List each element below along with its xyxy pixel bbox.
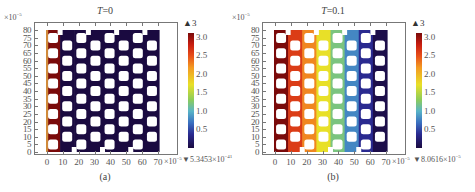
x-tick-mark (142, 23, 143, 26)
y-tick-mark (35, 61, 38, 62)
colorbar-tick-label: 2.5 (424, 50, 435, 60)
x-tick-label: 40 (330, 157, 346, 167)
y-exponent-label: ×10−5 (232, 12, 250, 22)
panel-b-title: T=0.1 (293, 5, 373, 16)
y-exponent-label: ×10−5 (4, 12, 22, 22)
x-tick-mark (354, 151, 355, 154)
x-tick-mark (158, 151, 159, 154)
x-tick-mark (307, 23, 308, 26)
colorbar-max-label: ▲3 (183, 18, 196, 28)
panel-b: T=0.1 ×10−5 8075706560555045403530252015… (228, 0, 465, 192)
y-tick-mark (263, 114, 266, 115)
y-tick-mark (35, 114, 38, 115)
y-tick-mark (35, 68, 38, 69)
panel-a-title: T=0 (65, 5, 145, 16)
y-tick-mark (35, 53, 38, 54)
x-tick-mark (338, 151, 339, 154)
x-tick-label: 30 (87, 157, 103, 167)
colorbar-tick-label: 3.0 (424, 32, 435, 42)
x-tick-mark (370, 23, 371, 26)
colorbar-a (188, 33, 194, 148)
colorbar-b (416, 33, 422, 148)
y-tick-label: 0 (239, 148, 259, 156)
colorbar-tick-label: 1.0 (424, 106, 435, 116)
y-tick-mark (35, 38, 38, 39)
y-tick-mark (263, 68, 266, 69)
x-tick-mark (142, 151, 143, 154)
x-tick-label: 60 (362, 157, 378, 167)
colorbar-tick-label: 2.0 (196, 69, 207, 79)
colorbar-min-label: ▼8.0616×10−5 (413, 154, 461, 164)
x-tick-label: 30 (315, 157, 331, 167)
x-tick-mark (63, 151, 64, 154)
x-tick-mark (110, 151, 111, 154)
y-tick-mark (35, 30, 38, 31)
y-tick-mark (35, 152, 38, 153)
x-tick-mark (307, 151, 308, 154)
colorbar-tick-label: 2.5 (196, 50, 207, 60)
x-tick-label: 40 (102, 157, 118, 167)
y-tick-mark (35, 129, 38, 130)
x-tick-mark (95, 23, 96, 26)
y-tick-mark (263, 91, 266, 92)
x-tick-mark (386, 151, 387, 154)
colorbar-tick-label: 3.0 (196, 32, 207, 42)
y-tick-mark (263, 53, 266, 54)
x-tick-label: 10 (55, 157, 71, 167)
y-tick-mark (263, 61, 266, 62)
x-tick-label: 50 (346, 157, 362, 167)
porous-geometry-b (263, 23, 405, 154)
x-tick-mark (126, 23, 127, 26)
colorbar-max-label: ▲3 (411, 18, 424, 28)
x-tick-label: 50 (118, 157, 134, 167)
x-tick-mark (95, 151, 96, 154)
x-tick-label: 20 (299, 157, 315, 167)
colorbar-tick-label: 1.5 (196, 87, 207, 97)
colorbar-tick-label: 1.5 (424, 87, 435, 97)
y-tick-mark (263, 106, 266, 107)
title-value: =0 (102, 5, 113, 16)
x-tick-mark (47, 151, 48, 154)
x-tick-mark (386, 23, 387, 26)
y-tick-mark (263, 152, 266, 153)
y-tick-mark (263, 122, 266, 123)
x-tick-mark (47, 23, 48, 26)
caption-a: (a) (90, 171, 120, 182)
colorbar-tick-label: 2.0 (424, 69, 435, 79)
colorbar-tick-label: 0.5 (424, 124, 435, 134)
x-tick-mark (63, 23, 64, 26)
y-tick-mark (263, 83, 266, 84)
y-tick-mark (35, 83, 38, 84)
x-tick-mark (338, 23, 339, 26)
colorbar-tick-label: 1.0 (196, 106, 207, 116)
x-tick-label: 60 (134, 157, 150, 167)
y-tick-mark (263, 30, 266, 31)
y-tick-mark (35, 45, 38, 46)
x-tick-mark (275, 151, 276, 154)
title-value: =0.1 (327, 5, 345, 16)
y-tick-mark (263, 76, 266, 77)
y-tick-mark (35, 144, 38, 145)
panel-a: T=0 ×10−5 807570656055504540353025201510… (0, 0, 237, 192)
x-tick-mark (126, 151, 127, 154)
x-tick-mark (370, 151, 371, 154)
x-exponent-label: ×10−5 (392, 156, 410, 166)
x-tick-mark (158, 23, 159, 26)
y-tick-mark (263, 137, 266, 138)
x-tick-mark (291, 23, 292, 26)
y-tick-mark (35, 106, 38, 107)
y-tick-mark (263, 144, 266, 145)
x-tick-label: 0 (267, 157, 283, 167)
caption-b: (b) (318, 171, 348, 182)
y-tick-mark (35, 137, 38, 138)
y-tick-mark (263, 45, 266, 46)
x-tick-mark (275, 23, 276, 26)
y-tick-mark (263, 38, 266, 39)
x-tick-mark (354, 23, 355, 26)
x-tick-mark (79, 151, 80, 154)
x-tick-mark (110, 23, 111, 26)
y-tick-mark (35, 91, 38, 92)
x-tick-mark (79, 23, 80, 26)
y-tick-mark (35, 99, 38, 100)
y-tick-mark (35, 76, 38, 77)
